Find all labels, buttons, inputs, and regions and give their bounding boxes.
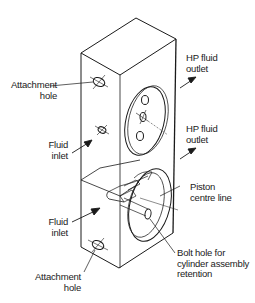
label-fluid-inlet-bottom: Fluid inlet (30, 217, 68, 238)
label-line: Bolt hole for (177, 248, 249, 259)
outlet-flange-disc (118, 81, 175, 159)
attachment-hole-bottom-icon (88, 238, 108, 252)
label-fluid-inlet-top: Fluid inlet (30, 140, 68, 161)
label-line: HP fluid (186, 53, 218, 64)
label-line: hole (25, 283, 81, 294)
cylinder-assembly-disc (107, 164, 179, 245)
label-line: outlet (186, 64, 218, 75)
label-line: Fluid (30, 140, 68, 151)
label-line: HP fluid (186, 124, 218, 135)
label-line: Piston (190, 182, 232, 193)
label-attachment-hole-top: Attachment hole (5, 80, 57, 101)
label-bolt-hole: Bolt hole for cylinder assembly retentio… (177, 248, 249, 280)
label-piston-centre-line: Piston centre line (190, 182, 232, 203)
label-line: centre line (190, 193, 232, 204)
label-line: inlet (30, 151, 68, 162)
label-line: outlet (186, 135, 218, 146)
leader-bolt (150, 219, 175, 253)
label-line: Attachment (25, 272, 81, 283)
label-line: Attachment (5, 80, 57, 91)
leader-piston (160, 186, 180, 196)
block-right-edge (173, 39, 176, 233)
leader-attachment-bottom (84, 250, 95, 272)
label-hp-outlet-bottom: HP fluid outlet (186, 124, 218, 145)
fluid-inlet-top-icon (95, 125, 109, 135)
label-line: inlet (30, 228, 68, 239)
arrow-hp-outlet-top-icon (180, 77, 196, 88)
label-line: Fluid (30, 217, 68, 228)
arrow-hp-outlet-bottom-icon (180, 148, 196, 159)
label-line: retention (177, 269, 249, 280)
label-attachment-hole-bottom: Attachment hole (25, 272, 81, 293)
arrow-fluid-inlet-bottom-icon (72, 208, 100, 222)
label-line: hole (5, 91, 57, 102)
arrow-fluid-inlet-top-icon (72, 140, 92, 153)
label-hp-outlet-top: HP fluid outlet (186, 53, 218, 74)
block-top-face (81, 18, 176, 75)
